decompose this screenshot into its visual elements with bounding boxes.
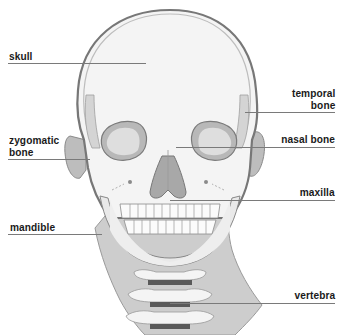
label-temporal-line1: temporal [292,87,335,99]
leader-line-vertebra [170,303,335,304]
leader-line-nasal-bone [176,147,335,148]
leader-line-mandible [8,234,102,235]
leader-line-temporal-bone [245,112,335,113]
label-nasal-bone: nasal bone [281,133,335,145]
leader-line-maxilla [170,200,335,201]
label-temporal-bone: temporal bone [292,87,335,111]
label-maxilla-text: maxilla [300,186,335,198]
label-skull: skull [9,50,33,62]
label-mandible-text: mandible [10,221,55,233]
skull-illustration [0,0,343,335]
label-mandible: mandible [10,221,55,233]
label-vertebra-text: vertebra [294,289,335,301]
label-maxilla: maxilla [300,186,335,198]
label-skull-text: skull [9,50,33,62]
label-zygomatic-line2: bone [9,146,59,158]
label-temporal-line2: bone [292,99,335,111]
label-vertebra: vertebra [294,289,335,301]
label-zygomatic-bone: zygomatic bone [9,134,59,158]
label-zygomatic-line1: zygomatic [9,134,59,146]
label-nasal-bone-text: nasal bone [281,133,335,145]
leader-line-skull [8,63,146,64]
leader-line-zygomatic-bone [8,159,90,160]
